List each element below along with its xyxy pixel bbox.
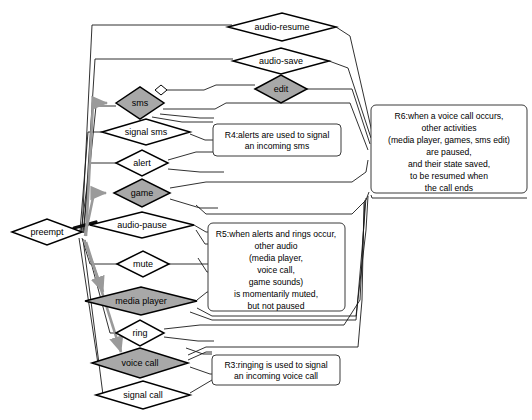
- node-media-player-label: media player: [115, 296, 167, 306]
- note-layer: R4:alerts are used to signal an incoming…: [208, 105, 527, 385]
- edge-right-spine-a: [336, 27, 372, 132]
- edge-r6-bottom-rail: [371, 195, 527, 198]
- note-R5-line-3: voice call,: [257, 265, 295, 275]
- feature-interaction-diagram: R4:alerts are used to signal an incoming…: [0, 0, 532, 420]
- diagram-canvas: R4:alerts are used to signal an incoming…: [0, 0, 532, 420]
- edge-sms-right-a: [163, 103, 350, 109]
- edge-media-player-r5: [197, 292, 208, 300]
- edge-voice-call-r3-b: [190, 367, 213, 374]
- edge-signal-sms-r4: [190, 134, 213, 140]
- node-signal-call[interactable]: signal call: [96, 381, 190, 409]
- note-R5-line-4: game sounds): [249, 277, 304, 287]
- note-R3-line-1: an incoming voice call: [234, 371, 318, 381]
- node-voice-call[interactable]: voice call: [92, 348, 188, 378]
- node-mute-label: mute: [133, 259, 153, 269]
- edge-game-right-b: [196, 205, 352, 214]
- edge-game-right: [170, 182, 352, 188]
- edge-voice-call-right: [188, 347, 358, 355]
- node-edit-label: edit: [274, 84, 289, 94]
- node-mute[interactable]: mute: [117, 251, 169, 277]
- node-audio-resume-label: audio-resume: [254, 22, 309, 32]
- edge-sms-r4: [160, 114, 214, 118]
- node-voice-call-label: voice call: [121, 358, 158, 368]
- edge-signal-call-r3: [190, 380, 212, 393]
- note-R6-line-0: R6:when a voice call occurs,: [395, 111, 504, 121]
- node-audio-save[interactable]: audio-save: [233, 48, 329, 74]
- node-alert-label: alert: [133, 158, 151, 168]
- edge-alert-r4: [168, 152, 213, 160]
- edge-alert-right: [168, 169, 224, 172]
- edge-sms-edit: [167, 85, 255, 90]
- node-signal-call-label: signal call: [123, 390, 163, 400]
- note-R6-line-2: (media player, games, sms edit): [388, 135, 510, 145]
- note-R5-line-5: is momentarily muted,: [234, 289, 318, 299]
- node-ring-label: ring: [132, 328, 147, 338]
- node-game-label: game: [131, 188, 154, 198]
- node-audio-pause-label: audio-pause: [117, 220, 167, 230]
- note-R6-line-3: are paused,: [426, 147, 471, 157]
- node-audio-pause[interactable]: audio-pause: [90, 212, 194, 238]
- node-audio-save-label: audio-save: [259, 56, 303, 66]
- node-alert[interactable]: alert: [116, 150, 168, 176]
- node-layer: audio-resume audio-save edit sms signal …: [12, 13, 336, 409]
- node-sms-label: sms: [132, 98, 149, 108]
- node-game[interactable]: game: [114, 179, 170, 207]
- note-R5-line-1: other audio: [254, 241, 297, 251]
- edge-right-spine-f: [352, 192, 369, 214]
- note-R4: R4:alerts are used to signal an incoming…: [213, 124, 341, 156]
- note-R4-line-1: an incoming sms: [245, 141, 309, 151]
- node-audio-resume[interactable]: audio-resume: [228, 13, 336, 41]
- edge-ring-r3: [164, 337, 214, 341]
- node-preempt-label: preempt: [30, 227, 64, 237]
- note-R3-line-0: R3:ringing is used to signal: [224, 360, 327, 370]
- node-sms-port: [155, 85, 167, 95]
- node-signal-sms-label: signal sms: [125, 127, 168, 137]
- edge-ring-right: [164, 325, 344, 329]
- node-edit[interactable]: edit: [255, 75, 307, 103]
- node-preempt[interactable]: preempt: [12, 219, 82, 245]
- sms-port-diamond-icon: [155, 85, 167, 95]
- note-R5: R5:when alerts and rings occur, other au…: [208, 223, 345, 311]
- edge-preempt-audio-save: [84, 59, 233, 233]
- edge-ring-r3-b: [186, 348, 212, 354]
- note-R6-line-4: and their state saved,: [408, 159, 490, 169]
- note-R5-line-0: R5:when alerts and rings occur,: [216, 229, 336, 239]
- edge-right-spine-e: [352, 160, 368, 182]
- note-R4-box: [213, 124, 341, 156]
- note-R6-line-5: to be resumed when: [410, 171, 488, 181]
- note-R6-line-6: the call ends: [425, 183, 473, 193]
- edge-game-r5: [170, 199, 218, 208]
- node-ring[interactable]: ring: [116, 320, 164, 346]
- note-R6-line-1: other activities: [422, 123, 477, 133]
- node-signal-sms[interactable]: signal sms: [102, 119, 190, 145]
- note-R3: R3:ringing is used to signal an incoming…: [212, 355, 340, 385]
- note-R5-line-6: but not paused: [248, 301, 305, 311]
- edge-mute-r5-b: [198, 258, 208, 272]
- note-R6: R6:when a voice call occurs, other activ…: [371, 105, 527, 193]
- note-R4-line-0: R4:alerts are used to signal: [225, 130, 330, 140]
- note-R5-line-2: (media player,: [249, 253, 303, 263]
